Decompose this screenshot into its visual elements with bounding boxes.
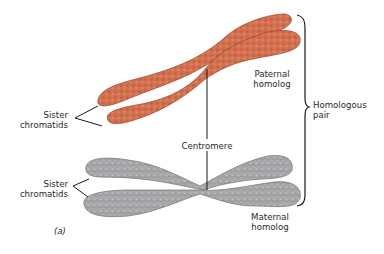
sister-chromatids-bottom-pointer bbox=[73, 179, 89, 197]
panel-label: (a) bbox=[48, 226, 72, 236]
sister-chromatids-top-label: Sister chromatids bbox=[8, 110, 68, 130]
maternal-homolog bbox=[84, 156, 300, 217]
maternal-homolog-label: Maternal homolog bbox=[240, 212, 300, 232]
sister-chromatids-bottom-label: Sister chromatids bbox=[8, 179, 68, 199]
homologous-pair-label: Homologous pair bbox=[313, 100, 383, 120]
sister-chromatids-top-pointer bbox=[75, 106, 102, 126]
centromere-label: Centromere bbox=[172, 141, 242, 151]
paternal-homolog-label: Paternal homolog bbox=[242, 69, 302, 89]
paternal-chromatid-upper bbox=[98, 14, 292, 106]
